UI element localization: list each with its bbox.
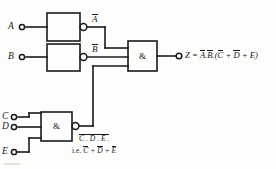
inversion-bubble-not-a <box>80 24 87 31</box>
scan-artifact <box>4 163 20 165</box>
input-label-e: E <box>2 147 8 157</box>
not-gate-a-body <box>47 13 80 41</box>
annotation-e-bar: E <box>112 146 117 155</box>
wire-label-a-bar: A <box>92 14 98 24</box>
annotation-cde-bar: C . D . E . <box>79 134 109 143</box>
circuit-wiring <box>0 0 276 169</box>
circuit-diagram: A B C D E & & A B Z = A.B.(C + D + E) C … <box>0 0 276 169</box>
output-expression: Z = A.B.(C + D + E) <box>185 50 258 61</box>
nand-gate-symbol: & <box>53 121 60 131</box>
terminal-b <box>19 54 24 59</box>
input-label-a: A <box>8 22 14 32</box>
terminal-a <box>19 24 24 29</box>
annotation-plus1: + <box>88 146 97 155</box>
terminal-e <box>11 149 16 154</box>
inversion-bubble-not-b <box>80 54 87 61</box>
terminal-d <box>11 124 16 129</box>
annotation-ie-prefix: i.e. <box>72 146 83 155</box>
term-plus2: + <box>240 50 250 60</box>
inversion-bubble-nand <box>72 123 79 130</box>
not-gate-b-body <box>47 44 80 71</box>
nand-annotation-line1: C . D . E . <box>79 134 109 143</box>
term-closeparen: ) <box>255 50 258 60</box>
annotation-plus2: + <box>103 146 112 155</box>
input-label-b: B <box>8 52 14 62</box>
input-label-d: D <box>2 122 9 132</box>
output-prefix: Z = <box>185 50 200 60</box>
term-plus1: + <box>223 50 233 60</box>
terminal-output-z <box>176 53 182 59</box>
terminal-c <box>11 114 16 119</box>
and-gate-symbol: & <box>139 51 146 61</box>
wire-label-b-bar: B <box>92 44 98 54</box>
nand-annotation-line2: i.e. C + D + E <box>72 146 116 155</box>
